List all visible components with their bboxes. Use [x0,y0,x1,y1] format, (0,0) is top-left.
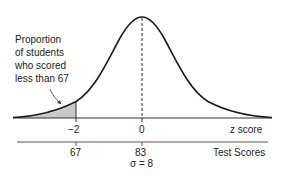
score-tick-67: 67 [70,147,81,159]
z-score-axis-label: z score [230,124,262,136]
z-tick-0: 0 [139,124,145,136]
sigma-label: σ = 8 [130,158,153,170]
test-scores-axis-label: Test Scores [213,147,265,159]
annotation-line: Proportion [15,33,69,46]
shaded-region-annotation: Proportion of students who scored less t… [15,33,69,85]
annotation-line: who scored [15,59,69,72]
annotation-line: less than 67 [15,72,69,85]
shaded-tail-region [13,102,76,118]
z-tick-minus2: −2 [68,124,79,136]
annotation-line: of students [15,46,69,59]
